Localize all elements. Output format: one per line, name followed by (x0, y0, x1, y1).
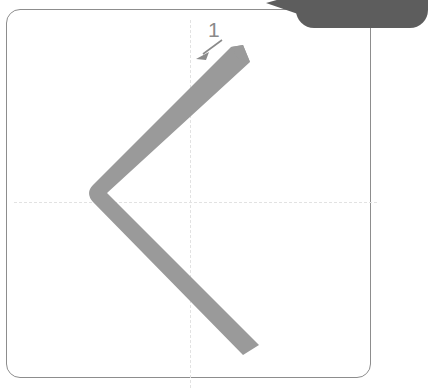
tooltip-tail-icon (266, 0, 298, 14)
stroke-direction-arrow (196, 40, 222, 60)
stroke-number-label: 1 (208, 18, 220, 42)
tooltip-bubble[interactable]: 追 傑 追 綿 (296, 0, 428, 28)
stroke-drawing-layer (0, 0, 428, 391)
stroke-path-1 (89, 45, 259, 355)
